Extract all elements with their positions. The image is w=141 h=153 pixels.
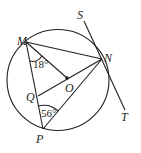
segment-mn xyxy=(26,42,102,59)
geometry-diagram: M N O Q P S T 18° 56° xyxy=(0,0,141,153)
angle-label-56: 56° xyxy=(41,107,56,119)
label-n: N xyxy=(103,51,113,65)
label-q: Q xyxy=(26,90,35,104)
label-m: M xyxy=(16,34,28,48)
label-s: S xyxy=(77,8,83,22)
angle-label-18: 18° xyxy=(33,58,48,70)
center-point-o xyxy=(65,76,69,80)
label-p: P xyxy=(35,132,44,146)
label-t: T xyxy=(121,110,129,124)
label-o: O xyxy=(65,81,74,95)
